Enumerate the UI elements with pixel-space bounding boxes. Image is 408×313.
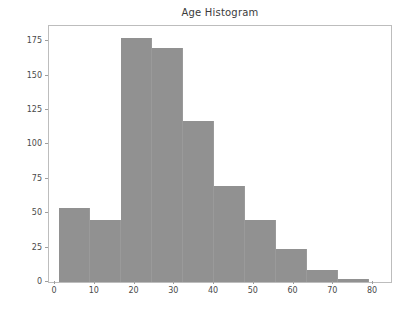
x-axis-tick-label: 70 bbox=[312, 286, 352, 295]
histogram-bar bbox=[245, 220, 276, 282]
histogram-bar bbox=[307, 270, 338, 282]
histogram-bar bbox=[59, 208, 90, 282]
y-axis-tick-label: 75 bbox=[2, 173, 42, 182]
y-axis-tick-label: 50 bbox=[2, 208, 42, 217]
x-axis-tick-label: 10 bbox=[74, 286, 114, 295]
y-axis-tick-label: 100 bbox=[2, 139, 42, 148]
x-axis-tick-label: 0 bbox=[34, 286, 74, 295]
histogram-bar bbox=[152, 48, 183, 282]
x-axis-tick-label: 20 bbox=[114, 286, 154, 295]
y-axis-tick-label: 175 bbox=[2, 36, 42, 45]
figure-canvas: Age Histogram 02550751001251501750102030… bbox=[0, 0, 408, 313]
histogram-bar bbox=[90, 220, 121, 282]
y-axis-tick-label: 125 bbox=[2, 104, 42, 113]
y-axis-tick-label: 0 bbox=[2, 277, 42, 286]
histogram-bar bbox=[214, 186, 245, 282]
y-axis-tick-label: 150 bbox=[2, 70, 42, 79]
x-axis-tick-label: 30 bbox=[153, 286, 193, 295]
histogram-bar bbox=[183, 121, 214, 282]
page-title: Age Histogram bbox=[48, 7, 392, 18]
plot-axes-frame bbox=[48, 25, 392, 283]
x-axis-tick-label: 80 bbox=[352, 286, 392, 295]
plot-area bbox=[49, 26, 391, 282]
histogram-bar bbox=[276, 249, 307, 282]
y-axis-tick-label: 25 bbox=[2, 242, 42, 251]
x-axis-tick-label: 50 bbox=[233, 286, 273, 295]
x-axis-tick-label: 60 bbox=[273, 286, 313, 295]
x-axis-tick-label: 40 bbox=[193, 286, 233, 295]
histogram-bar bbox=[121, 38, 152, 282]
histogram-bar bbox=[338, 279, 369, 282]
